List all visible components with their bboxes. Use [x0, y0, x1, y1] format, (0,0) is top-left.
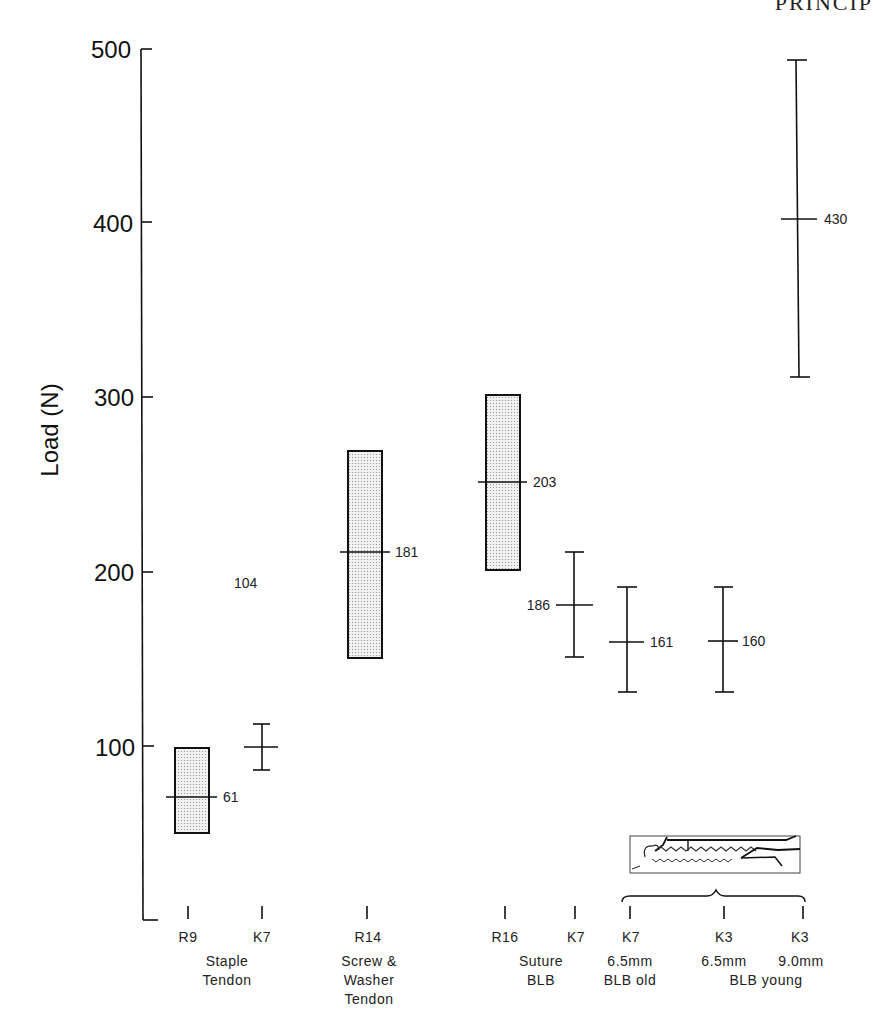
group-old-line2: BLB old [604, 972, 657, 988]
group-young65-line1: 6.5mm [701, 953, 746, 969]
value-label-k7-old: 161 [650, 634, 674, 650]
group-screw-line3: Tendon [345, 991, 394, 1007]
y-tick-300: 300 [94, 384, 134, 411]
group-old-line1: 6.5mm [607, 953, 652, 969]
code-r14: R14 [354, 929, 381, 945]
value-label-r9: 61 [223, 789, 239, 805]
data-errorbar-k3-young90: 430 [781, 60, 848, 377]
data-errorbar-k7-staple: 104 [234, 575, 278, 770]
value-label-r14: 181 [395, 544, 419, 560]
x-group-labels: Staple Tendon Screw & Washer Tendon Sutu… [203, 953, 824, 1007]
x-axis-ticks [188, 906, 803, 919]
code-k3-young90: K3 [791, 929, 809, 945]
y-tick-500: 500 [91, 36, 131, 63]
y-axis-label: Load (N) [36, 383, 63, 476]
group-young90-line1: 9.0mm [778, 953, 823, 969]
group-staple-line1: Staple [206, 953, 249, 969]
y-axis: 500 400 300 200 100 Load (N) [36, 36, 158, 920]
code-k3-young65: K3 [715, 929, 733, 945]
value-label-r16: 203 [533, 474, 557, 490]
code-k7-staple: K7 [253, 929, 271, 945]
screw-inset-illustration [630, 836, 800, 873]
data-errorbar-k7-suture: 186 [527, 552, 593, 657]
x-category-codes: R9 K7 R14 R16 K7 K7 K3 K3 [179, 929, 810, 945]
value-label-k3-young65: 160 [742, 633, 766, 649]
code-k7-suture: K7 [567, 929, 585, 945]
code-r16: R16 [491, 929, 518, 945]
group-suture-line1: Suture [519, 953, 563, 969]
data-box-r9: 61 [166, 748, 239, 833]
data-box-r14: 181 [340, 451, 419, 658]
y-tick-400: 400 [93, 210, 133, 237]
value-label-k3-young90: 430 [824, 211, 848, 227]
data-box-r16: 203 [478, 395, 557, 570]
group-bracket [622, 890, 805, 902]
group-staple-line2: Tendon [203, 972, 252, 988]
code-k7-old: K7 [622, 929, 640, 945]
value-label-k7-suture: 186 [527, 597, 551, 613]
group-screw-line2: Washer [344, 972, 395, 988]
data-errorbar-k3-young65: 160 [708, 587, 766, 692]
data-errorbar-k7-old: 161 [609, 587, 674, 692]
group-screw-line1: Screw & [341, 953, 397, 969]
value-label-k7-staple: 104 [234, 575, 258, 591]
group-young-line2: BLB young [730, 972, 803, 988]
y-tick-200: 200 [94, 559, 134, 586]
y-tick-100: 100 [95, 734, 135, 761]
group-suture-line2: BLB [527, 972, 555, 988]
code-r9: R9 [179, 929, 198, 945]
